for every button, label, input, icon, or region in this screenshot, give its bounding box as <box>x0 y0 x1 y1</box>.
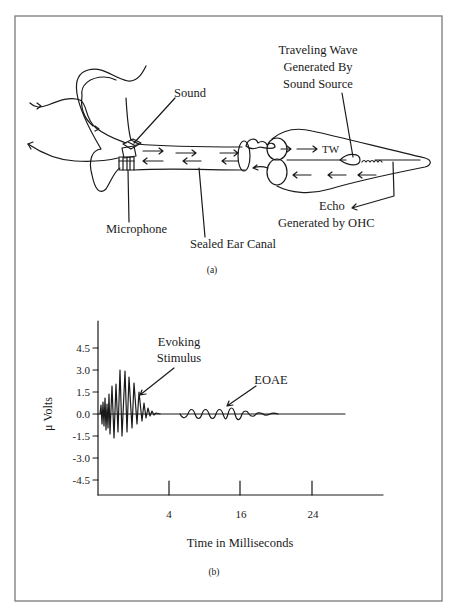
echo-arrow-3 <box>358 172 376 178</box>
y-tick-label: 3.0 <box>76 364 90 376</box>
evoking-stimulus-waveform <box>100 370 160 438</box>
outgoing-sound-path <box>28 144 118 161</box>
x-tick-label: 4 <box>166 508 172 520</box>
x-axis-tick-labels: 4 16 24 <box>166 508 319 520</box>
evoking-annotation-line2: Stimulus <box>157 351 202 365</box>
ohc-squiggle <box>362 161 382 163</box>
y-axis-ticks <box>93 348 98 480</box>
tw-title-line2: Generated By <box>283 60 353 74</box>
eardrum <box>238 141 250 171</box>
pinna-inner-fold <box>82 77 116 126</box>
ear-canal-tube <box>134 144 245 170</box>
panel-a-ear-diagram: TW Traveling Wave Generated By Sound Sou… <box>28 43 430 276</box>
panel-b-chart: 4.5 3.0 1.5 0.0 -1.5 -3.0 -4.5 μ Volts 4… <box>41 321 383 578</box>
evoking-arrow <box>140 368 174 395</box>
incoming-arrowhead-1 <box>37 103 41 109</box>
y-tick-label: -1.5 <box>73 430 91 442</box>
panel-a-caption: (a) <box>207 265 218 276</box>
x-axis-label: Time in Milliseconds <box>187 536 294 550</box>
probe-cable <box>126 98 131 140</box>
x-tick-label: 16 <box>236 508 248 520</box>
canal-leader-line <box>199 168 205 237</box>
tw-title-line3: Sound Source <box>283 77 353 91</box>
sound-label: Sound <box>174 86 207 100</box>
canal-arrows <box>143 148 238 164</box>
pinna-outline <box>76 66 146 191</box>
y-axis-label: μ Volts <box>41 397 55 431</box>
cochlea-outline <box>272 129 430 192</box>
y-tick-label: -3.0 <box>73 452 91 464</box>
x-axis-ticks <box>169 481 312 495</box>
incoming-sound-path <box>30 99 126 143</box>
evoking-annotation-line1: Evoking <box>158 335 201 349</box>
tw-title-line1: Traveling Wave <box>278 43 358 57</box>
sound-leader-line <box>134 98 175 143</box>
echo-leader-line <box>352 162 394 210</box>
microphone-leader-line <box>128 170 129 222</box>
panel-b-caption: (b) <box>208 567 219 578</box>
echo-arrow-2 <box>328 172 346 178</box>
echo-arrow-1 <box>293 172 311 178</box>
tw-arrow-2 <box>297 146 317 152</box>
middle-ear-return-arrow <box>253 165 268 170</box>
echo-label: Echo <box>319 199 345 213</box>
x-tick-label: 24 <box>308 508 320 520</box>
tw-arrow-1 <box>281 146 291 152</box>
round-window <box>267 159 287 185</box>
figure-canvas: TW Traveling Wave Generated By Sound Sou… <box>0 0 451 610</box>
eoae-annotation: EOAE <box>254 373 288 387</box>
y-tick-label: 4.5 <box>76 342 90 354</box>
y-tick-label: 1.5 <box>76 386 90 398</box>
y-tick-label: 0.0 <box>76 408 90 420</box>
y-axis-tick-labels: 4.5 3.0 1.5 0.0 -1.5 -3.0 -4.5 <box>73 342 91 486</box>
tw-label: TW <box>322 143 340 155</box>
eoae-arrow <box>227 386 256 406</box>
tw-source-leader-line <box>342 93 353 157</box>
sealed-ear-canal-label: Sealed Ear Canal <box>190 237 277 251</box>
echo-generated-label: Generated by OHC <box>278 216 375 230</box>
y-tick-label: -4.5 <box>73 474 91 486</box>
microphone-label: Microphone <box>106 222 168 236</box>
